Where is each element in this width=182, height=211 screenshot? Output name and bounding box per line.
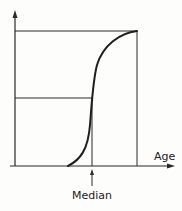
y-axis-arrow-icon	[13, 10, 18, 18]
median-arrow-icon	[90, 169, 94, 175]
median-label: Median	[72, 189, 112, 202]
diagram-canvas: Age Median	[0, 0, 182, 211]
x-axis-label: Age	[154, 150, 176, 163]
cdf-diagram: Age Median	[0, 0, 182, 211]
x-axis-arrow-icon	[167, 164, 175, 169]
